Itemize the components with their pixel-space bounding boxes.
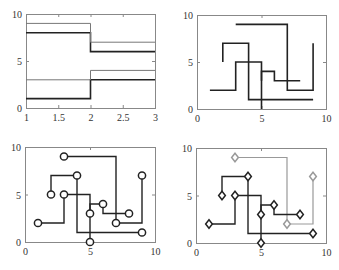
x-tick-label: 5 — [260, 113, 265, 124]
circle-marker — [138, 172, 145, 179]
circle-marker — [125, 210, 132, 217]
x-tick-label: 10 — [151, 246, 161, 257]
circle-marker — [73, 172, 80, 179]
y-tick-label: 10 — [11, 142, 21, 153]
y-tick-label: 5 — [188, 57, 193, 68]
subplot-1: 11.522.530510 — [12, 9, 158, 123]
diamond-marker — [245, 172, 252, 180]
y-tick-label: 0 — [17, 103, 22, 114]
subplot-2: 05100510 — [183, 10, 332, 124]
diamond-marker — [232, 191, 239, 199]
x-tick-label: 0 — [194, 247, 199, 258]
diamond-marker — [310, 229, 317, 237]
x-tick-label: 1.5 — [53, 112, 66, 123]
circle-marker — [99, 200, 106, 207]
y-tick-label: 10 — [183, 10, 193, 21]
circle-marker — [34, 219, 41, 226]
x-tick-label: 2 — [89, 112, 94, 123]
circle-marker — [112, 219, 119, 226]
y-tick-label: 0 — [187, 238, 192, 249]
y-tick-label: 5 — [17, 56, 22, 67]
circle-marker — [47, 191, 54, 198]
subplot-3: 05100510 — [11, 142, 161, 257]
stairs-line-series-c — [209, 196, 261, 244]
diamond-marker — [310, 172, 317, 180]
stairs-line-series-d — [261, 205, 300, 215]
circle-marker — [138, 229, 145, 236]
y-tick-label: 5 — [187, 191, 192, 202]
diamond-marker — [258, 210, 265, 218]
figure-canvas: 11.522.530510 05100510 05100510 05100510 — [0, 0, 339, 270]
x-tick-label: 10 — [322, 113, 332, 124]
diamond-marker — [271, 201, 278, 209]
x-tick-label: 5 — [88, 246, 93, 257]
diamond-marker — [284, 220, 291, 228]
diamond-marker — [297, 210, 304, 218]
x-tick-label: 0 — [195, 113, 200, 124]
diamond-marker — [232, 153, 239, 161]
y-tick-label: 0 — [188, 104, 193, 115]
stairs-line-series-d — [262, 71, 301, 80]
y-tick-label: 5 — [16, 190, 21, 201]
diamond-marker — [219, 191, 226, 199]
y-tick-label: 10 — [182, 143, 192, 154]
x-tick-label: 1 — [24, 112, 29, 123]
stairs-line-series-c — [38, 195, 90, 243]
x-tick-label: 3 — [153, 112, 158, 123]
y-tick-label: 0 — [16, 237, 21, 248]
circle-marker — [60, 153, 67, 160]
x-tick-label: 5 — [259, 247, 264, 258]
figure: 11.522.530510 05100510 05100510 05100510 — [0, 0, 339, 270]
y-tick-label: 10 — [12, 9, 22, 20]
circle-marker — [86, 238, 93, 245]
stairs-line-series-2 — [26, 80, 155, 99]
subplot-4: 05100510 — [182, 143, 332, 258]
x-tick-label: 0 — [23, 246, 28, 257]
stairs-line-series-4 — [26, 70, 155, 79]
diamond-marker — [258, 239, 265, 247]
x-tick-label: 10 — [322, 247, 332, 258]
diamond-marker — [206, 220, 213, 228]
x-tick-label: 2.5 — [117, 112, 130, 123]
stairs-line-series-c — [210, 62, 262, 109]
stairs-line-series-d — [90, 204, 129, 214]
circle-marker — [60, 191, 67, 198]
circle-marker — [86, 210, 93, 217]
